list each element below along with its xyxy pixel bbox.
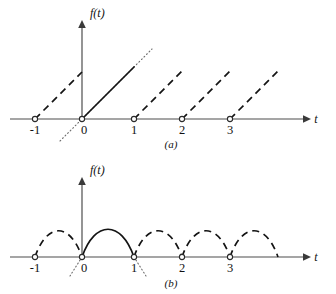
two-panel-periodic-function-figure: -1 0 1 2 3 f(t) t (a) [0,0,336,294]
panel-a-tick-label-0: 0 [81,123,87,137]
panel-a-open-circle-neg1 [32,116,37,121]
panel-a-t-axis-arrowhead [303,115,311,123]
panel-a-ramp-segment-2 [182,71,230,119]
panel-a-open-circle-0 [79,116,84,121]
panel-a-ramp-segment-1 [134,71,182,119]
panel-a-x-axis-label: t [314,112,318,126]
panel-b-tick-label-0: 0 [81,261,87,275]
panel-a-f-axis-arrowhead [78,20,86,28]
panel-b-open-circle-1 [131,254,136,259]
panel-b-tick-label-neg1: -1 [30,261,40,275]
panel-a-open-circle-1 [131,116,136,121]
panel-b-open-circle-3 [227,254,232,259]
panel-a-caption: (a) [165,138,178,151]
panel-b-arch-1 [134,231,182,257]
panel-b-y-axis-label: f(t) [90,163,105,177]
panel-b-caption: (b) [165,277,178,290]
panel-b-f-axis-arrowhead [78,177,86,185]
panel-a: -1 0 1 2 3 f(t) t (a) [10,6,318,151]
panel-b-tick-label-3: 3 [227,261,233,275]
panel-b: -1 0 1 2 3 f(t) t (b) [10,163,318,290]
panel-b-tick-label-1: 1 [131,261,137,275]
panel-b-arch-2 [182,231,230,257]
panel-a-open-circle-3 [227,116,232,121]
panel-b-t-axis-arrowhead [303,253,311,261]
panel-b-x-axis-label: t [314,250,318,264]
panel-b-open-circle-0 [79,254,84,259]
panel-a-y-axis-label: f(t) [90,6,105,20]
panel-b-arch-neg1 [35,231,82,257]
panel-b-open-circle-2 [179,254,184,259]
panel-b-arch-3 [230,231,278,257]
figure-container: -1 0 1 2 3 f(t) t (a) [0,0,336,294]
panel-a-tick-label-neg1: -1 [30,123,40,137]
panel-a-tick-label-1: 1 [131,123,137,137]
panel-a-tick-label-3: 3 [227,123,233,137]
panel-a-ramp-segment-principal [82,67,134,119]
panel-b-tick-label-2: 2 [179,261,185,275]
panel-b-arch-principal [82,229,134,257]
panel-a-tick-label-2: 2 [179,123,185,137]
panel-a-ramp-segment-neg1 [35,72,82,119]
panel-a-ramp-segment-3 [230,71,278,119]
panel-a-open-circle-2 [179,116,184,121]
panel-b-open-circle-neg1 [32,254,37,259]
